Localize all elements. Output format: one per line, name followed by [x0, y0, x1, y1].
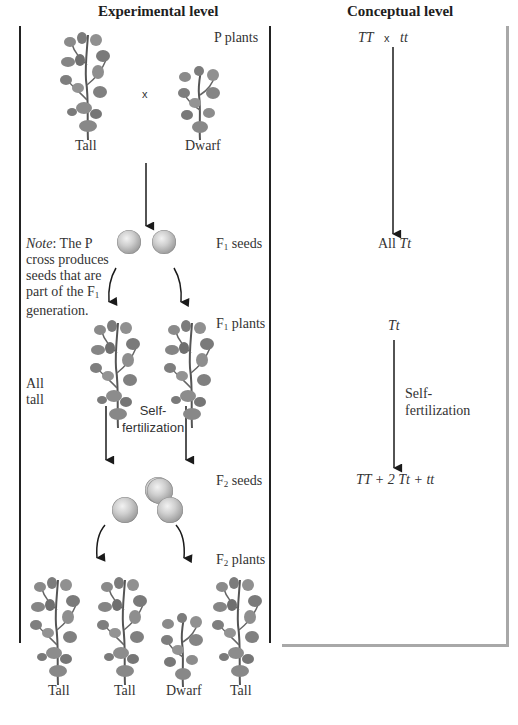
conceptual-arrows — [0, 0, 518, 725]
conceptual-self-fertilization-label: Self-fertilization — [405, 385, 470, 419]
conceptual-f2-ratio: TT + 2 Tt + tt — [356, 472, 434, 488]
conceptual-f1-genotype: Tt — [388, 318, 400, 334]
conceptual-f1-result: All Tt — [378, 236, 411, 252]
